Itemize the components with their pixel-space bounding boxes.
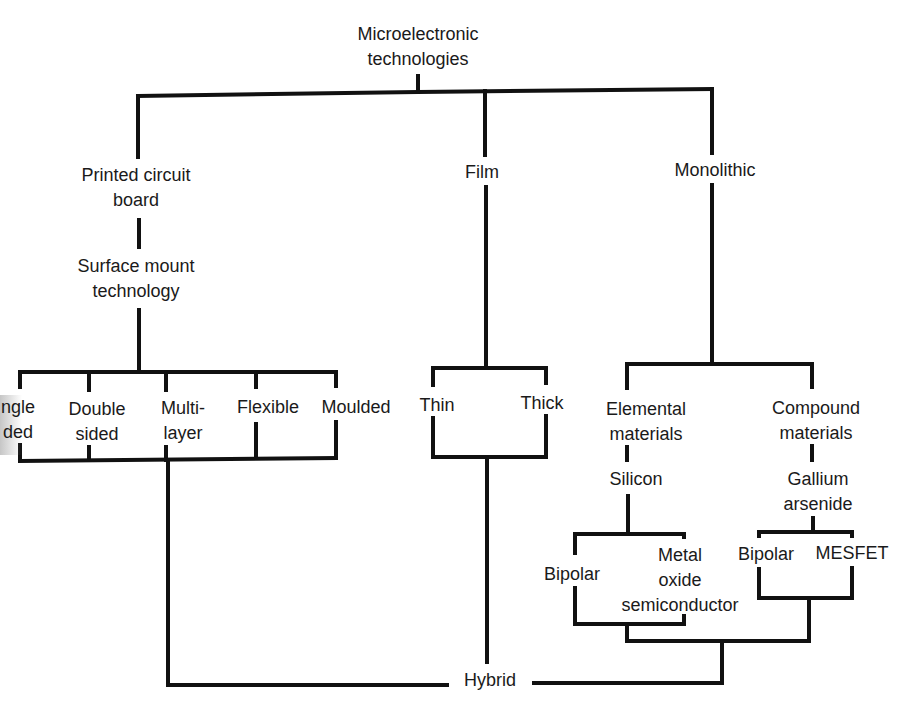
node-silicon-bipolar: Bipolar [544,562,600,587]
node-label: technologies [357,47,478,72]
node-label: layer [161,421,205,446]
node-single-sided: ngle ded [1,395,35,445]
node-label: Bipolar [738,542,794,567]
connector-lines [0,0,921,721]
node-printed-circuit-board: Printed circuit board [81,163,190,213]
monolithic-hybrid-link [534,641,722,683]
node-compound-materials: Compound materials [772,396,860,446]
node-label: Hybrid [464,668,516,693]
node-gallium-arsenide: Gallium arsenide [783,467,852,517]
node-label: Film [465,160,499,185]
node-label: Flexible [237,395,299,420]
node-thin: Thin [419,393,454,418]
node-label: Microelectronic [357,22,478,47]
node-label: arsenide [783,492,852,517]
node-label: Thin [419,393,454,418]
node-label: ded [1,420,35,445]
node-label: semiconductor [621,593,738,618]
node-label: sided [68,422,125,447]
node-label: materials [606,422,686,447]
node-label: Monolithic [674,158,755,183]
top-bar [138,89,712,96]
node-surface-mount-technology: Surface mount technology [77,254,194,304]
pcb-hybrid-link [168,461,447,685]
node-label: Multi- [161,396,205,421]
node-elemental-materials: Elemental materials [606,397,686,447]
node-label: board [81,188,190,213]
node-label: MESFET [815,541,888,566]
node-label: technology [77,279,194,304]
node-label: Compound [772,396,860,421]
node-label: Elemental [606,397,686,422]
node-label: Bipolar [544,562,600,587]
node-label: oxide [621,568,738,593]
node-film: Film [465,160,499,185]
node-double-sided: Double sided [68,397,125,447]
node-metal-oxide-semiconductor: Metal oxide semiconductor [621,543,738,618]
node-label: Surface mount [77,254,194,279]
node-hybrid: Hybrid [464,668,516,693]
node-microelectronic-technologies: Microelectronic technologies [357,22,478,72]
node-flexible: Flexible [237,395,299,420]
node-label: Printed circuit [81,163,190,188]
node-label: Gallium [783,467,852,492]
node-label: Double [68,397,125,422]
node-monolithic: Monolithic [674,158,755,183]
node-label: Silicon [609,467,662,492]
pcb-children-bottom-bar [20,458,336,461]
node-label: Metal [621,543,738,568]
node-gaas-bipolar: Bipolar [738,542,794,567]
node-silicon: Silicon [609,467,662,492]
node-multi-layer: Multi- layer [161,396,205,446]
node-thick: Thick [520,391,563,416]
node-label: ngle [1,395,35,420]
node-label: Thick [520,391,563,416]
node-moulded: Moulded [321,395,390,420]
node-label: Moulded [321,395,390,420]
node-label: materials [772,421,860,446]
node-mesfet: MESFET [815,541,888,566]
